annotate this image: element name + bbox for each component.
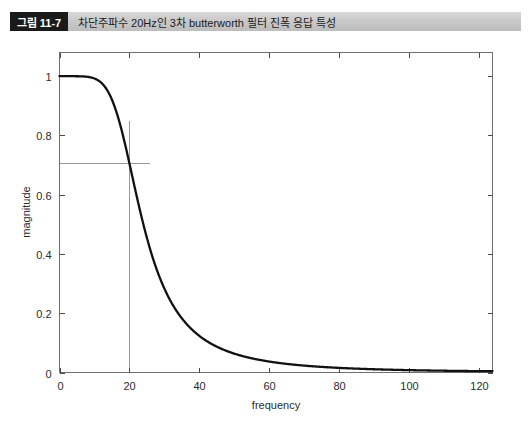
y-tick-label: 0 [45, 368, 51, 380]
y-tick-label: 0.6 [36, 190, 51, 202]
y-tick-label: 1 [45, 71, 51, 83]
y-axis-tick-labels: 00.20.40.60.81 [36, 71, 51, 380]
x-tick-label: 100 [400, 380, 418, 392]
guide-lines-group [60, 121, 151, 373]
x-tick-label: 40 [193, 380, 205, 392]
x-tick-label: 60 [263, 380, 275, 392]
x-tick-label: 20 [123, 380, 135, 392]
y-tick-label: 0.4 [36, 249, 51, 261]
butterworth-response-curve [60, 76, 493, 371]
x-axis-tick-labels: 020406080100120 [57, 380, 488, 392]
y-axis-ticks [60, 77, 493, 374]
y-tick-label: 0.2 [36, 308, 51, 320]
figure-plot-area: 020406080100120 00.20.40.60.81 frequency… [0, 36, 531, 432]
figure-caption-bar: 그림 11-7 차단주파수 20Hz인 3차 butterworth 필터 진폭… [10, 12, 521, 31]
x-axis-ticks [61, 53, 480, 373]
y-tick-label: 0.8 [36, 130, 51, 142]
x-tick-label: 120 [470, 380, 488, 392]
y-axis-title: magnitude [20, 186, 32, 237]
plot-frame [60, 53, 493, 373]
figure-caption-text: 차단주파수 20Hz인 3차 butterworth 필터 진폭 응답 특성 [68, 14, 521, 30]
x-tick-label: 80 [333, 380, 345, 392]
butterworth-magnitude-chart: 020406080100120 00.20.40.60.81 frequency… [0, 36, 531, 432]
x-tick-label: 0 [57, 380, 63, 392]
figure-number-badge: 그림 11-7 [10, 12, 68, 31]
x-axis-title: frequency [252, 399, 301, 411]
